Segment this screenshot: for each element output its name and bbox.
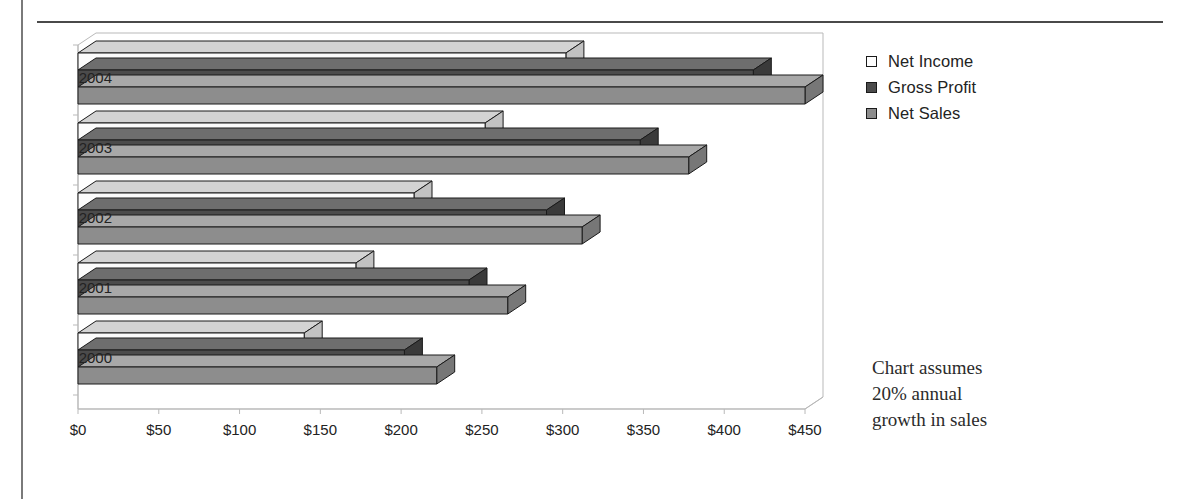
bar-group-2001 (78, 251, 526, 314)
x-tick-label: $150 (304, 421, 337, 438)
annotation-line-2: 20% annual (872, 381, 1132, 407)
x-tick-label: $0 (70, 421, 87, 438)
y-tick-label: 2000 (62, 348, 112, 365)
legend-item[interactable]: Net Income (866, 48, 1106, 74)
chart-3d-bar: $0$50$100$150$200$250$300$350$400$450200… (0, 0, 1179, 499)
x-tick-label: $50 (146, 421, 171, 438)
x-tick-label: $200 (384, 421, 417, 438)
x-tick-label: $250 (465, 421, 498, 438)
bar-group-2002 (78, 181, 600, 244)
y-tick-label: 2003 (62, 138, 112, 155)
legend-swatch-icon (866, 82, 877, 93)
x-tick-label: $350 (627, 421, 660, 438)
bar-group-2000 (78, 321, 455, 384)
x-tick-label: $300 (546, 421, 579, 438)
legend-item-label: Net Income (888, 52, 973, 71)
chart-annotation: Chart assumes 20% annual growth in sales (872, 355, 1132, 433)
x-tick-label: $100 (223, 421, 256, 438)
legend-swatch-icon (866, 108, 877, 119)
legend-item-label: Net Sales (888, 104, 960, 123)
bar-2003-net-sales[interactable] (78, 145, 707, 174)
bar-group-2004 (78, 41, 823, 104)
y-tick-label: 2004 (62, 68, 112, 85)
annotation-line-3: growth in sales (872, 407, 1132, 433)
bar-2004-net-sales[interactable] (78, 75, 823, 104)
legend-item[interactable]: Net Sales (866, 100, 1106, 126)
y-tick-label: 2002 (62, 208, 112, 225)
x-tick-label: $450 (788, 421, 821, 438)
x-axis-ticks (78, 409, 805, 414)
legend-item[interactable]: Gross Profit (866, 74, 1106, 100)
bar-group-2003 (78, 111, 707, 174)
y-tick-label: 2001 (62, 278, 112, 295)
x-tick-label: $400 (708, 421, 741, 438)
annotation-line-1: Chart assumes (872, 355, 1132, 381)
legend-swatch-icon (866, 56, 877, 67)
bar-2002-net-sales[interactable] (78, 215, 600, 244)
page-root: $0$50$100$150$200$250$300$350$400$450200… (0, 0, 1179, 499)
bar-2001-net-sales[interactable] (78, 285, 526, 314)
legend-item-label: Gross Profit (888, 78, 976, 97)
bar-2000-net-sales[interactable] (78, 355, 455, 384)
chart-legend: Net IncomeGross ProfitNet Sales (866, 48, 1106, 126)
